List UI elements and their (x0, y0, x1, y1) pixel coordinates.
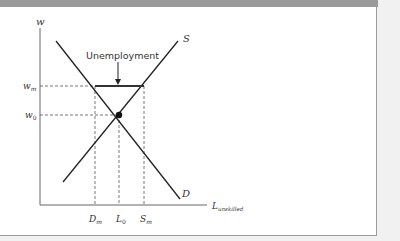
arrow-head-icon (115, 79, 121, 85)
y-axis-label: w (36, 16, 45, 27)
equilibrium-point (116, 112, 122, 118)
x-axis-label: Lunskilled (211, 201, 244, 212)
w0-label: w0 (25, 110, 37, 121)
wm-label: wm (23, 81, 37, 92)
supply-curve (63, 41, 178, 182)
supply-label: S (183, 33, 190, 44)
unemployment-label: Unemployment (86, 50, 159, 61)
dm-label: Dm (88, 214, 102, 225)
labor-market-diagram: w wm w0 Dm L0 Sm Lunskilled S D Unemploy… (0, 0, 400, 241)
demand-label: D (181, 188, 190, 199)
l0-label: L0 (115, 214, 126, 225)
sm-label: Sm (140, 214, 152, 225)
